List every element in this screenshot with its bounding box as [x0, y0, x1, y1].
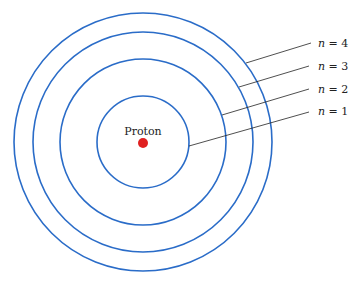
leader-line-n1 [189, 112, 309, 146]
leader-line-n2 [222, 89, 309, 115]
label-n4: n = 4 [318, 37, 348, 50]
proton-label: Proton [124, 125, 161, 138]
label-n3: n = 3 [318, 60, 348, 73]
label-n1: n = 1 [318, 105, 348, 118]
leader-line-n4 [246, 43, 311, 63]
label-n2: n = 2 [318, 83, 348, 96]
proton-nucleus [138, 138, 148, 148]
bohr-diagram: Proton n = 4 n = 3 n = 2 n = 1 [0, 0, 355, 281]
